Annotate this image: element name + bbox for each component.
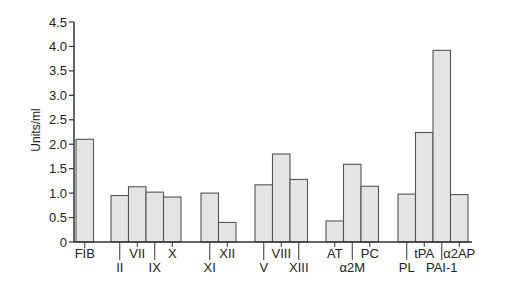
bar-v xyxy=(255,185,273,242)
bar-at xyxy=(326,221,344,242)
bar-ii xyxy=(111,196,129,242)
x-tick-label: XIII xyxy=(289,260,309,275)
bar-ix xyxy=(146,192,164,242)
y-tick-label: 2.5 xyxy=(49,112,67,127)
chart-canvas: Units/ml 00.51.01.52.02.53.03.54.04.5 FI… xyxy=(0,0,505,282)
bar-viii xyxy=(273,154,291,242)
x-tick-label: FIB xyxy=(75,246,95,261)
y-tick-label: 3.5 xyxy=(49,63,67,78)
y-tick-label: 2.0 xyxy=(49,137,67,152)
y-tick-label: 0 xyxy=(60,235,67,250)
y-tick-label: 3.0 xyxy=(49,88,67,103)
x-tick-label: PAI-1 xyxy=(426,260,458,275)
bar-vii xyxy=(129,187,147,242)
bars xyxy=(76,50,468,242)
bar-chart: Units/ml 00.51.01.52.02.53.03.54.04.5 FI… xyxy=(0,0,505,282)
y-tick-label: 1.0 xyxy=(49,186,67,201)
bar-tpa xyxy=(416,132,434,242)
bar-pc xyxy=(361,186,379,242)
bar-pai-1 xyxy=(433,50,451,242)
x-tick-label: XI xyxy=(204,260,216,275)
x-axis: FIBIIVIIIXXXIXIIVVIIIXIIIATα2MPCPLtPAPAI… xyxy=(74,242,475,275)
x-tick-label: IX xyxy=(149,260,162,275)
x-tick-label: PC xyxy=(361,246,379,261)
bar-xi xyxy=(201,193,219,242)
x-tick-label: II xyxy=(116,260,123,275)
y-tick-label: 1.5 xyxy=(49,161,67,176)
bar-x xyxy=(164,197,182,242)
x-tick-label: X xyxy=(168,246,177,261)
bar-fib xyxy=(76,139,94,242)
x-tick-label: VIII xyxy=(271,246,291,261)
bar-pl xyxy=(398,194,416,242)
bar--2m xyxy=(344,164,362,242)
y-tick-label: 4.5 xyxy=(49,15,67,30)
x-tick-label: α2AP xyxy=(443,246,475,261)
y-axis-label: Units/ml xyxy=(29,108,43,151)
x-tick-label: XII xyxy=(219,246,235,261)
bar--2ap xyxy=(451,195,469,242)
y-axis: 00.51.01.52.02.53.03.54.04.5 xyxy=(49,15,74,250)
bar-xii xyxy=(219,222,237,242)
bar-xiii xyxy=(290,179,308,242)
x-tick-label: VII xyxy=(129,246,145,261)
y-tick-label: 0.5 xyxy=(49,210,67,225)
x-tick-label: V xyxy=(259,260,268,275)
x-tick-label: AT xyxy=(327,246,343,261)
y-tick-label: 4.0 xyxy=(49,39,67,54)
x-tick-label: tPA xyxy=(414,246,434,261)
x-tick-label: α2M xyxy=(339,260,365,275)
x-tick-label: PL xyxy=(399,260,415,275)
